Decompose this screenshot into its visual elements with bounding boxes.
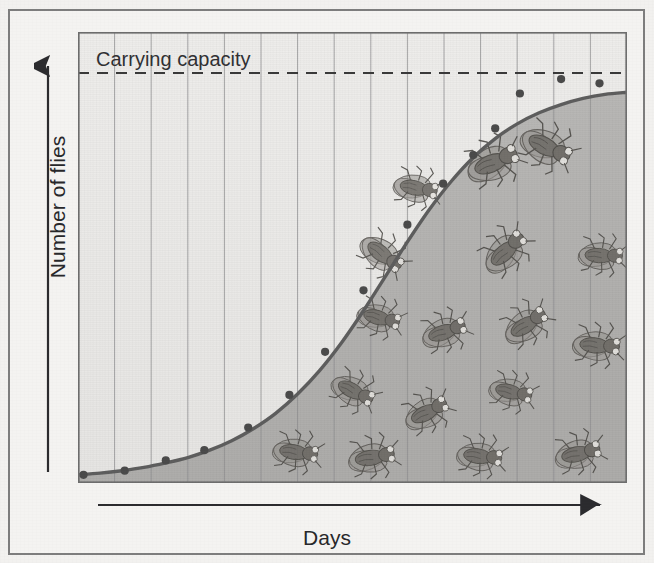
- y-axis-label: Number of flies: [46, 87, 70, 327]
- data-point: [200, 446, 208, 454]
- data-point: [244, 424, 252, 432]
- data-point: [595, 79, 603, 87]
- data-point: [162, 456, 170, 464]
- data-point: [439, 180, 447, 188]
- data-point: [321, 348, 329, 356]
- data-point: [516, 89, 524, 97]
- carrying-capacity-label: Carrying capacity: [96, 48, 251, 71]
- data-point: [469, 151, 477, 159]
- data-point: [491, 124, 499, 132]
- growth-curve-chart: [78, 32, 627, 483]
- data-point: [403, 221, 411, 229]
- data-point: [285, 391, 293, 399]
- x-axis-arrow: [96, 494, 612, 516]
- data-point: [557, 75, 565, 83]
- data-point: [79, 471, 87, 479]
- figure-root: Number of flies Days: [0, 0, 654, 563]
- plot-area: [78, 32, 627, 483]
- data-point: [121, 467, 129, 475]
- data-point: [359, 286, 367, 294]
- x-axis-label: Days: [0, 526, 654, 550]
